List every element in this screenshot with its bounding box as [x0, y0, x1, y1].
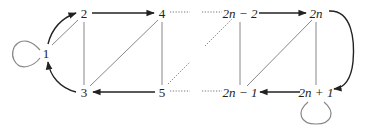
self-loop-node-1 — [13, 41, 40, 67]
node-2n-label: 2n — [310, 6, 323, 21]
node-4-label: 4 — [159, 6, 166, 21]
arrow-2n-to-2n+1 — [329, 11, 354, 89]
node-3-label: 3 — [81, 85, 88, 100]
node-2n-minus-2-label: 2n − 2 — [223, 6, 258, 21]
node-5-label: 5 — [159, 85, 166, 100]
node-2n-plus-1-label: 2n + 1 — [299, 85, 334, 100]
graph-diagram: 1 2 3 4 5 2n − 2 2n − 1 2n 2n + 1 — [0, 0, 374, 129]
arrow-3-to-1 — [48, 62, 76, 92]
node-2n-minus-1-label: 2n − 1 — [223, 85, 258, 100]
node-1-label: 1 — [43, 46, 50, 61]
arrow-1-to-2 — [48, 13, 76, 44]
edge-3-4 — [90, 20, 158, 86]
edge-2n-1-to-2n — [247, 20, 312, 86]
self-loop-node-2n-plus-1 — [301, 102, 331, 124]
node-2-label: 2 — [81, 6, 88, 21]
edge-1-2 — [52, 20, 78, 45]
ellipsis-diagonal-upper — [205, 19, 232, 46]
ellipsis-diagonal-lower — [168, 62, 190, 84]
